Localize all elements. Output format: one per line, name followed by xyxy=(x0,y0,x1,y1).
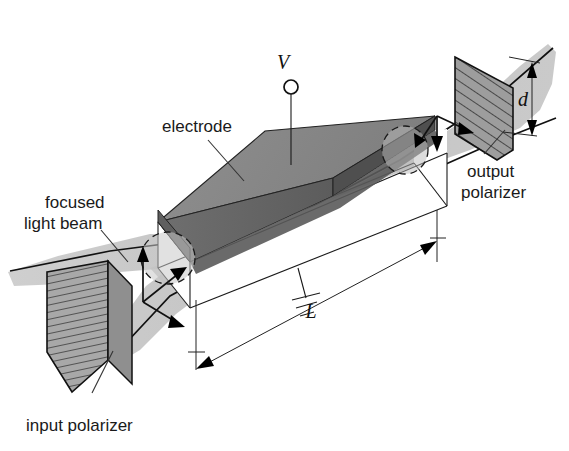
length-label: L xyxy=(304,300,316,322)
beam-waist-right xyxy=(382,126,428,174)
dashed-ellipse-icon xyxy=(382,126,428,174)
aperture-label: d xyxy=(518,88,529,110)
beam-waist-left xyxy=(141,232,195,284)
diagram-canvas: V L d xyxy=(0,0,569,451)
output-polarizer-label-line2: polarizer xyxy=(461,183,527,202)
open-circle-terminal-icon xyxy=(284,80,298,94)
optical-modulator-diagram: V L d xyxy=(0,0,569,451)
input-polarizer-label: input polarizer xyxy=(26,416,133,435)
electrode-label: electrode xyxy=(162,117,232,136)
dashed-ellipse-icon xyxy=(141,232,195,284)
output-polarizer-label-line1: output xyxy=(467,162,515,181)
focused-beam-label-line2: light beam xyxy=(24,214,102,233)
focused-beam-label-line1: focused xyxy=(45,193,105,212)
